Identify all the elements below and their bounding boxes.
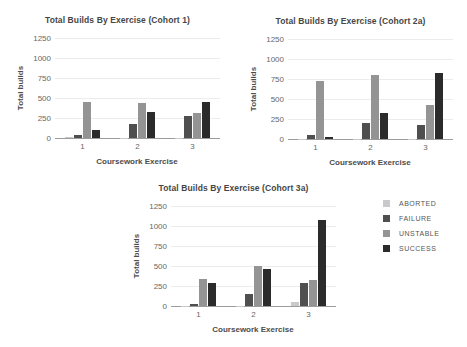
legend-swatch-icon [383, 245, 390, 252]
legend-item-failure: FAILURE [383, 211, 439, 226]
bar-success-ex2 [147, 112, 155, 138]
bar-aborted-ex3 [408, 139, 416, 140]
chart-title: Total Builds By Exercise (Cohort 1) [5, 15, 230, 25]
x-tick-label-3: 3 [190, 142, 194, 151]
bar-unstable-ex3 [309, 280, 317, 306]
legend-label: UNSTABLE [399, 230, 439, 237]
y-axis-title: Total builds [249, 67, 258, 111]
bar-success-ex3 [318, 220, 326, 306]
y-axis-title: Total builds [132, 234, 141, 278]
bar-success-ex1 [92, 130, 100, 138]
y-tick-label-500: 500 [121, 262, 167, 271]
bar-failure-ex1 [190, 304, 198, 306]
bar-success-ex3 [202, 102, 210, 138]
gridline-750 [171, 246, 336, 247]
bar-aborted-ex3 [291, 302, 299, 306]
chart-cohort-3a: Total Builds By Exercise (Cohort 3a) Tot… [121, 178, 346, 346]
legend-item-aborted: ABORTED [383, 196, 439, 211]
y-tick-label-750: 750 [238, 75, 284, 84]
legend: ABORTEDFAILUREUNSTABLESUCCESS [383, 196, 439, 256]
y-tick-label-250: 250 [121, 282, 167, 291]
y-tick-label-500: 500 [238, 95, 284, 104]
bar-failure-ex2 [362, 123, 370, 139]
bar-unstable-ex2 [138, 103, 146, 138]
bar-failure-ex3 [300, 283, 308, 306]
bar-aborted-ex2 [353, 139, 361, 140]
x-axis-title: Coursework Exercise [212, 325, 293, 334]
plot-area [288, 39, 453, 139]
y-tick-label-1000: 1000 [121, 222, 167, 231]
bar-unstable-ex1 [316, 81, 324, 139]
bar-unstable-ex2 [254, 266, 262, 306]
x-tick-label-2: 2 [135, 142, 139, 151]
y-tick-label-1250: 1250 [121, 202, 167, 211]
bar-success-ex1 [325, 137, 333, 139]
bar-aborted-ex1 [65, 137, 73, 138]
y-tick-label-500: 500 [5, 94, 51, 103]
bar-unstable-ex1 [83, 102, 91, 138]
x-axis-line [171, 306, 336, 307]
x-axis-title: Coursework Exercise [329, 158, 410, 167]
legend-swatch-icon [383, 215, 390, 222]
bar-failure-ex1 [307, 135, 315, 139]
bar-aborted-ex1 [181, 306, 189, 307]
bar-success-ex3 [435, 73, 443, 139]
y-tick-label-750: 750 [121, 242, 167, 251]
bar-failure-ex3 [184, 116, 192, 138]
gridline-1250 [288, 39, 453, 40]
y-tick-label-1000: 1000 [5, 54, 51, 63]
bar-success-ex1 [208, 283, 216, 306]
y-axis-title: Total builds [16, 66, 25, 110]
y-tick-label-250: 250 [5, 114, 51, 123]
legend-label: ABORTED [399, 200, 436, 207]
x-tick-label-1: 1 [313, 143, 317, 152]
plot-area [55, 38, 220, 138]
plot-area [171, 206, 336, 306]
legend-item-unstable: UNSTABLE [383, 226, 439, 241]
figure-canvas: Total Builds By Exercise (Cohort 1) Tota… [0, 0, 467, 347]
chart-cohort-1: Total Builds By Exercise (Cohort 1) Tota… [5, 10, 230, 178]
bar-success-ex2 [380, 113, 388, 139]
bar-failure-ex2 [245, 294, 253, 306]
gridline-1000 [288, 59, 453, 60]
y-tick-label-0: 0 [5, 134, 51, 143]
legend-item-success: SUCCESS [383, 241, 439, 256]
bar-aborted-ex3 [175, 138, 183, 139]
bar-unstable-ex1 [199, 279, 207, 306]
y-tick-label-1250: 1250 [238, 35, 284, 44]
chart-title: Total Builds By Exercise (Cohort 2a) [238, 16, 463, 26]
y-tick-label-1250: 1250 [5, 34, 51, 43]
gridline-1250 [55, 38, 220, 39]
y-tick-label-0: 0 [121, 302, 167, 311]
y-tick-label-750: 750 [5, 74, 51, 83]
bar-aborted-ex2 [120, 138, 128, 139]
bar-failure-ex1 [74, 135, 82, 138]
bar-aborted-ex2 [236, 306, 244, 307]
x-axis-title: Coursework Exercise [96, 157, 177, 166]
gridline-750 [55, 78, 220, 79]
x-tick-label-2: 2 [251, 310, 255, 319]
gridline-1250 [171, 206, 336, 207]
bar-aborted-ex1 [298, 139, 306, 140]
gridline-1000 [55, 58, 220, 59]
bar-unstable-ex3 [426, 105, 434, 139]
legend-label: SUCCESS [399, 245, 436, 252]
y-tick-label-250: 250 [238, 115, 284, 124]
bar-unstable-ex2 [371, 75, 379, 139]
x-tick-label-2: 2 [368, 143, 372, 152]
legend-label: FAILURE [399, 215, 432, 222]
x-axis-line [55, 138, 220, 139]
legend-swatch-icon [383, 200, 390, 207]
bar-unstable-ex3 [193, 113, 201, 138]
x-tick-label-3: 3 [423, 143, 427, 152]
bar-failure-ex3 [417, 125, 425, 139]
x-axis-line [288, 139, 453, 140]
y-tick-label-1000: 1000 [238, 55, 284, 64]
chart-cohort-2a: Total Builds By Exercise (Cohort 2a) Tot… [238, 11, 463, 179]
chart-title: Total Builds By Exercise (Cohort 3a) [121, 183, 346, 193]
bar-failure-ex2 [129, 124, 137, 138]
gridline-500 [55, 98, 220, 99]
bar-success-ex2 [263, 269, 271, 306]
x-tick-label-3: 3 [306, 310, 310, 319]
y-tick-label-0: 0 [238, 135, 284, 144]
